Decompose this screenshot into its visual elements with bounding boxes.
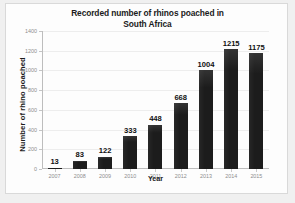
bar-value-label: 83 bbox=[76, 150, 84, 159]
bar-slot: 1222009 bbox=[92, 31, 117, 169]
bar-slot: 11752015 bbox=[244, 31, 269, 169]
bar[interactable] bbox=[148, 125, 162, 169]
bar-value-label: 668 bbox=[174, 93, 187, 102]
bar[interactable] bbox=[123, 136, 137, 169]
chart-title: Recorded number of rhinos poached in Sou… bbox=[26, 8, 269, 29]
x-tick-mark bbox=[206, 169, 207, 172]
x-tick-mark bbox=[256, 169, 257, 172]
x-tick-mark bbox=[231, 169, 232, 172]
y-axis-title: Number of rhino poached bbox=[18, 45, 27, 165]
bar-value-label: 1004 bbox=[197, 60, 214, 69]
bar[interactable] bbox=[73, 161, 87, 169]
y-tick-label: 1200 bbox=[25, 48, 37, 54]
bar-value-label: 13 bbox=[50, 157, 58, 166]
bar[interactable] bbox=[224, 49, 238, 169]
x-tick-mark bbox=[55, 169, 56, 172]
bar-value-label: 1175 bbox=[248, 43, 264, 52]
chart-title-line-2: South Africa bbox=[26, 19, 269, 30]
bar-slot: 132007 bbox=[42, 31, 67, 169]
x-tick-mark bbox=[80, 169, 81, 172]
screenshot-root: Recorded number of rhinos poached in Sou… bbox=[0, 0, 295, 203]
bar[interactable] bbox=[98, 157, 112, 169]
bar-slot: 832008 bbox=[67, 31, 92, 169]
x-tick-mark bbox=[105, 169, 106, 172]
bar[interactable] bbox=[174, 103, 188, 169]
bar-value-label: 122 bbox=[99, 146, 112, 155]
bar-slot: 6682012 bbox=[168, 31, 193, 169]
y-tick-label: 1400 bbox=[25, 28, 37, 34]
y-tick-label: 200 bbox=[28, 146, 37, 152]
bar-value-label: 448 bbox=[149, 114, 162, 123]
plot-area: 0200400600800100012001400 13200783200812… bbox=[42, 31, 269, 169]
bar-slot: 10042013 bbox=[193, 31, 218, 169]
x-tick-mark bbox=[130, 169, 131, 172]
y-tick-label: 400 bbox=[28, 127, 37, 133]
chart-card: Recorded number of rhinos poached in Sou… bbox=[5, 3, 288, 194]
y-tick-label: 800 bbox=[28, 87, 37, 93]
y-tick-label: 600 bbox=[28, 107, 37, 113]
y-tick-mark bbox=[39, 169, 42, 170]
x-axis-title: Year bbox=[42, 174, 269, 183]
bar-value-label: 333 bbox=[124, 126, 137, 135]
bar-slot: 4482011 bbox=[143, 31, 168, 169]
y-tick-label: 1000 bbox=[25, 67, 37, 73]
bar[interactable] bbox=[249, 53, 263, 169]
bar[interactable] bbox=[199, 70, 213, 169]
x-tick-mark bbox=[181, 169, 182, 172]
chart-title-line-1: Recorded number of rhinos poached in bbox=[71, 8, 224, 18]
bar-slot: 3332010 bbox=[118, 31, 143, 169]
bar-slot: 12152014 bbox=[219, 31, 244, 169]
x-tick-mark bbox=[155, 169, 156, 172]
bar-value-label: 1215 bbox=[223, 39, 240, 48]
y-tick-label: 0 bbox=[34, 166, 37, 172]
